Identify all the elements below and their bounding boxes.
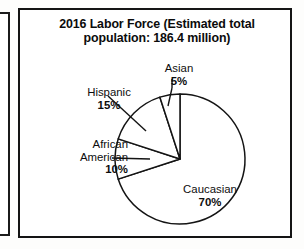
adjacent-figure-sliver — [0, 12, 10, 236]
pie-label-african-american-name-line-1: African — [46, 138, 128, 151]
pie-label-asian-name: Asian — [146, 62, 212, 75]
pie-label-caucasian-name: Caucasian — [170, 183, 250, 196]
pie-chart-plot-area — [20, 10, 294, 240]
pie-chart-svg — [20, 10, 294, 240]
pie-label-african-american-value: 10% — [46, 163, 128, 176]
figure-page: 2016 Labor Force (Estimated total popula… — [0, 0, 304, 249]
pie-label-hispanic-name: Hispanic — [76, 86, 142, 99]
pie-label-african-american: African American 10% — [46, 138, 128, 176]
pie-label-hispanic-value: 15% — [76, 99, 142, 112]
pie-label-caucasian: Caucasian 70% — [170, 183, 250, 208]
pie-label-asian: Asian 5% — [146, 62, 212, 87]
pie-label-caucasian-value: 70% — [170, 196, 250, 209]
pie-label-hispanic: Hispanic 15% — [76, 86, 142, 111]
pie-label-african-american-name-line-2: American — [46, 151, 128, 164]
chart-figure-frame: 2016 Labor Force (Estimated total popula… — [18, 8, 292, 238]
pie-label-asian-value: 5% — [146, 75, 212, 88]
